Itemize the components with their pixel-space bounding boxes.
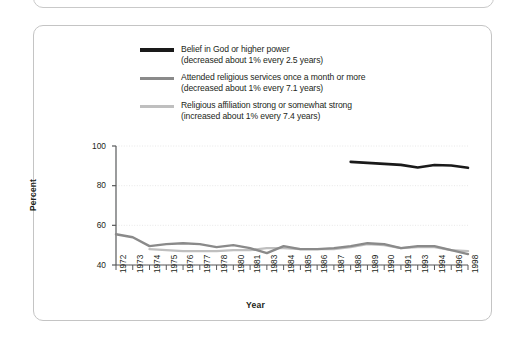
legend-swatch-line-icon xyxy=(140,105,174,108)
legend-item: Religious affiliation strong or somewhat… xyxy=(140,100,470,121)
legend-item-text: Religious affiliation strong or somewhat… xyxy=(181,100,352,121)
legend-item-sublabel: (decreased about 1% every 7.1 years) xyxy=(181,83,365,94)
legend-item-text: Belief in God or higher power (decreased… xyxy=(181,44,323,65)
legend-swatch-line-icon xyxy=(140,48,174,52)
chart-screenshot: Belief in God or higher power (decreased… xyxy=(0,0,522,347)
legend-item: Belief in God or higher power (decreased… xyxy=(140,44,470,65)
legend-item-label: Attended religious services once a month… xyxy=(181,72,365,82)
legend-item: Attended religious services once a month… xyxy=(140,72,470,93)
legend-item-sublabel: (decreased about 1% every 2.5 years) xyxy=(181,55,323,66)
legend-swatch-line-icon xyxy=(140,77,174,80)
cropped-upper-panel xyxy=(33,0,494,8)
legend-item-label: Religious affiliation strong or somewhat… xyxy=(181,100,352,110)
chart-legend: Belief in God or higher power (decreased… xyxy=(140,44,470,129)
legend-item-label: Belief in God or higher power xyxy=(181,44,289,54)
legend-item-text: Attended religious services once a month… xyxy=(181,72,365,93)
legend-item-sublabel: (increased about 1% every 7.4 years) xyxy=(181,111,352,122)
